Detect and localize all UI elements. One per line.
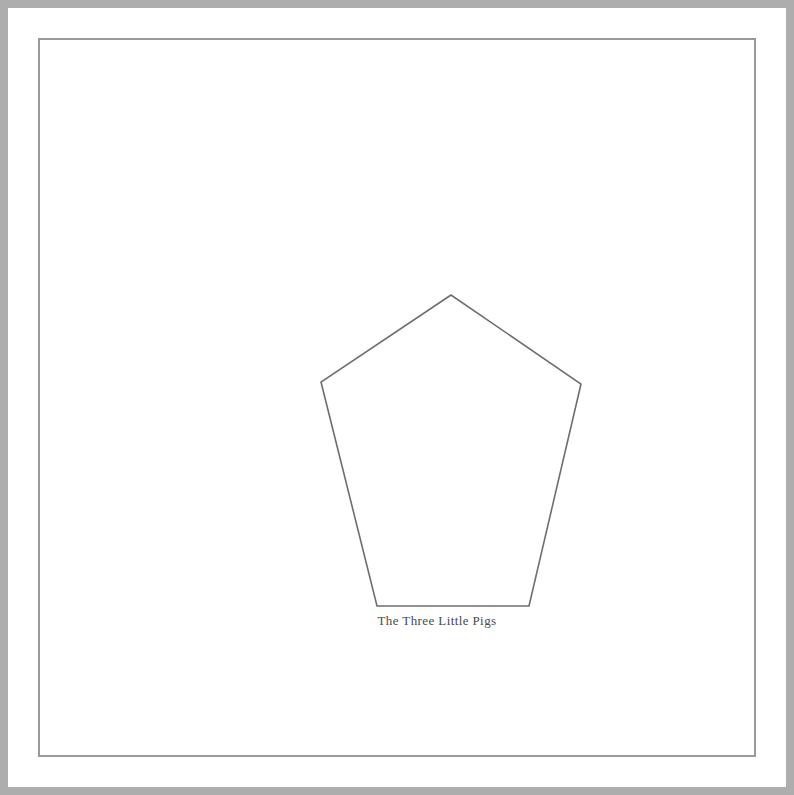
picture-frame-inner-rule: The Three Little Pigs <box>38 38 756 757</box>
figure-pentagon-with-caption: The Three Little Pigs <box>58 58 736 737</box>
pentagon-icon <box>321 295 581 606</box>
figure-caption: The Three Little Pigs <box>58 613 736 629</box>
picture-frame-white-gap: The Three Little Pigs <box>16 16 778 779</box>
illustration-canvas: The Three Little Pigs <box>58 58 736 737</box>
pentagon-shape-svg <box>58 58 736 737</box>
picture-frame-outer-band: The Three Little Pigs <box>0 0 794 795</box>
